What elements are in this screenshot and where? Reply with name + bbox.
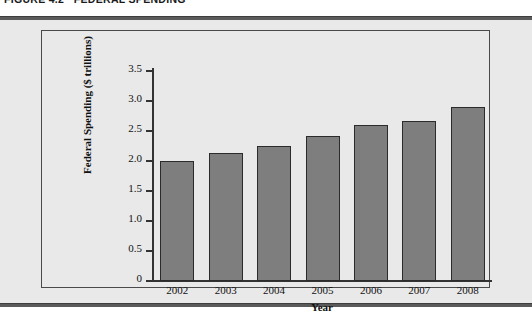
bar-2002 <box>160 161 194 281</box>
bar-2007 <box>402 121 436 281</box>
x-axis-tick-label: 2006 <box>345 284 397 296</box>
x-axis-tick-label: 2007 <box>393 284 445 296</box>
bar-2003 <box>209 153 243 281</box>
y-axis-tick-label: 3.5 <box>82 62 142 74</box>
y-axis-tick-label: 1.0 <box>82 212 142 224</box>
y-axis-tick-label: 1.5 <box>82 182 142 194</box>
bar-series <box>153 68 492 281</box>
bar-2008 <box>451 107 485 281</box>
bar-2005 <box>306 136 340 281</box>
bar-2006 <box>354 125 388 281</box>
figure-caption: FIGURE 4.2 FEDERAL SPENDING <box>4 0 186 5</box>
y-axis-tick-label: 0 <box>82 272 142 284</box>
x-axis-tick-label: 2008 <box>442 284 494 296</box>
y-axis-label: Federal Spending ($ trillions) <box>81 10 93 200</box>
chart-plot-frame: Federal Spending ($ trillions) 00.51.01.… <box>41 30 490 288</box>
y-axis-tick-label: 0.5 <box>82 242 142 254</box>
y-axis-tick-label: 2.5 <box>82 122 142 134</box>
x-axis-tick-label: 2004 <box>248 284 300 296</box>
y-axis-tick-label: 2.0 <box>82 152 142 164</box>
x-axis-tick-label: 2002 <box>151 284 203 296</box>
bar-2004 <box>257 146 291 281</box>
x-axis-tick-label: 2005 <box>297 284 349 296</box>
panel-top-rule <box>0 16 532 20</box>
y-axis-tick-label: 3.0 <box>82 92 142 104</box>
x-axis-label: Year <box>152 301 492 313</box>
x-axis-tick-label: 2003 <box>200 284 252 296</box>
